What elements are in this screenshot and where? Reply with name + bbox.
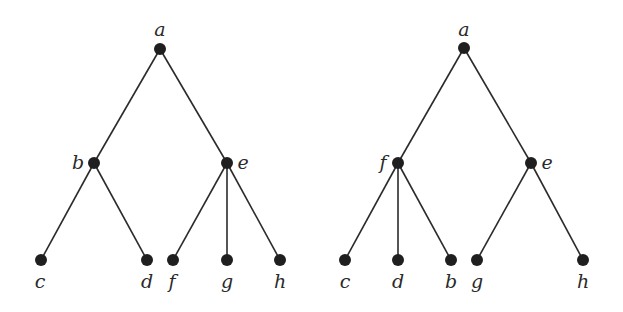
node-label-a: a [458,18,469,40]
node-label-f: f [377,151,389,173]
edge-e-h [531,163,583,260]
edge-b-d [94,163,147,260]
tree-diagram-canvas: abecdfgh afecdbgh [0,0,623,312]
edge-e-f [173,163,227,260]
edge-a-b [94,49,160,163]
node-g [221,254,233,266]
node-label-g: g [471,270,483,292]
edge-e-g [477,163,531,260]
node-label-h: h [274,270,286,292]
node-c [35,254,47,266]
node-label-g: g [221,270,233,292]
right-tree: afecdbgh [339,18,589,292]
edge-f-c [345,163,398,260]
edge-b-c [41,163,94,260]
edge-f-b [398,163,451,260]
left-tree: abecdfgh [35,18,286,292]
node-c [339,254,351,266]
node-e [221,157,233,169]
node-f [167,254,179,266]
node-label-a: a [154,18,165,40]
node-e [525,157,537,169]
node-label-d: d [141,270,153,292]
node-label-e: e [541,151,552,173]
node-h [274,254,286,266]
edge-a-e [464,48,531,163]
edge-a-f [398,48,464,163]
node-label-b: b [72,151,84,173]
node-b [88,157,100,169]
node-label-h: h [577,270,589,292]
node-b [445,254,457,266]
node-a [458,42,470,54]
node-g [471,254,483,266]
node-label-f: f [166,270,178,292]
node-h [577,254,589,266]
node-d [392,254,404,266]
edge-a-e [160,49,227,163]
node-a [154,43,166,55]
node-label-e: e [237,151,248,173]
node-label-b: b [445,270,457,292]
node-label-c: c [340,270,351,292]
node-label-d: d [392,270,404,292]
node-f [392,157,404,169]
edge-e-h [227,163,280,260]
node-d [141,254,153,266]
node-label-c: c [35,270,46,292]
